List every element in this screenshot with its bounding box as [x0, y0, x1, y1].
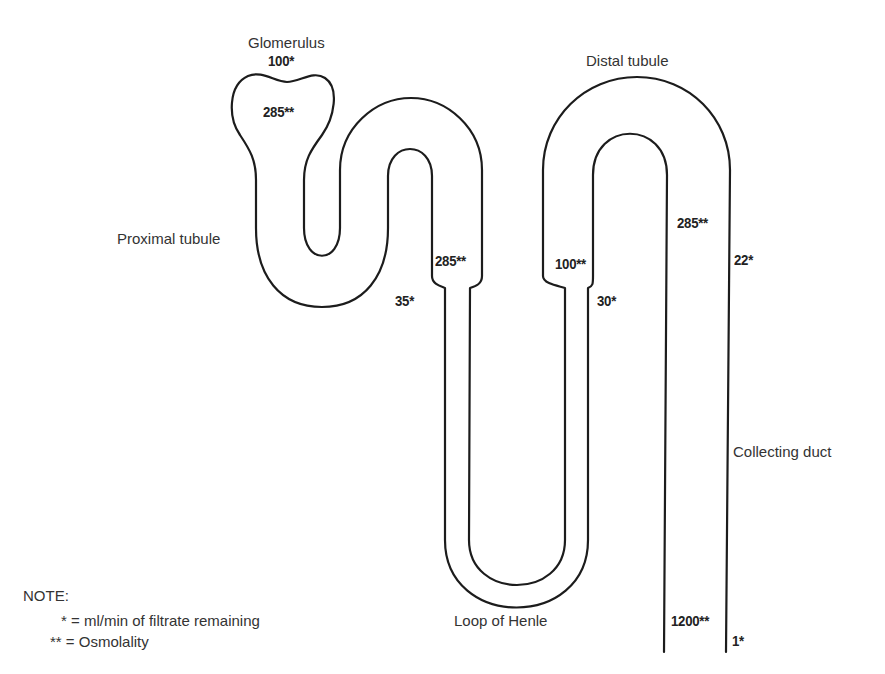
nephron-diagram — [0, 0, 885, 674]
value-proximal-end-osmolality: 285** — [435, 253, 466, 268]
value-glomerulus-filtrate: 100* — [268, 53, 294, 68]
value-distal-end-osmolality: 285** — [677, 215, 708, 230]
value-glomerulus-osmolality: 285** — [263, 104, 294, 119]
note-line-osmolality: ** = Osmolality — [50, 634, 149, 649]
note-title: NOTE: — [23, 588, 69, 603]
value-proximal-end-filtrate: 35* — [395, 293, 414, 308]
value-ascending-end-osmolality: 100** — [555, 256, 586, 271]
value-duct-end-filtrate: 1* — [732, 633, 744, 648]
value-ascending-end-filtrate: 30* — [597, 293, 616, 308]
label-glomerulus: Glomerulus — [248, 35, 325, 50]
nephron-inner-wall — [256, 134, 667, 652]
label-distal-tubule: Distal tubule — [586, 53, 669, 68]
value-duct-end-osmolality: 1200** — [671, 613, 709, 628]
label-proximal-tubule: Proximal tubule — [117, 231, 220, 246]
label-loop-of-henle: Loop of Henle — [454, 613, 547, 628]
nephron-outer-wall — [232, 74, 730, 652]
label-collecting-duct: Collecting duct — [733, 444, 831, 459]
note-line-filtrate: * = ml/min of filtrate remaining — [61, 613, 260, 628]
value-distal-end-filtrate: 22* — [734, 252, 753, 267]
